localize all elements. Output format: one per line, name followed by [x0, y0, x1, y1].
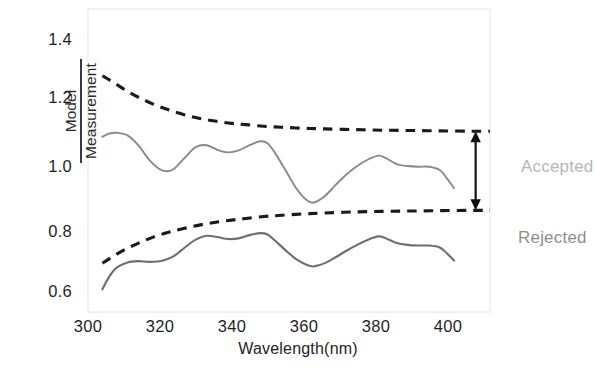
x-tick-label-400: 400 — [421, 317, 475, 336]
x-axis-label: Wavelength(nm) — [0, 340, 596, 358]
chart-figure: Model Measurement 1.4 1.2 1.0 0.8 0.6 30… — [0, 0, 596, 373]
series-accepted-ratio-curve — [102, 133, 454, 203]
series-rejected-ratio-curve — [102, 233, 454, 289]
x-tick-label-300: 300 — [61, 317, 115, 336]
series-lower-acceptance-limit — [102, 210, 490, 263]
x-tick-label-360: 360 — [277, 317, 331, 336]
x-tick-label-380: 380 — [349, 317, 403, 336]
accepted-label: Accepted — [521, 157, 593, 177]
x-tick-label-320: 320 — [133, 317, 187, 336]
y-tick-label-0-6: 0.6 — [24, 282, 72, 301]
y-tick-label-1-4: 1.4 — [24, 30, 72, 49]
series-upper-acceptance-limit — [102, 76, 490, 131]
y-tick-label-0-8: 0.8 — [24, 222, 72, 241]
y-tick-label-1-0: 1.0 — [24, 157, 72, 176]
y-tick-label-1-2: 1.2 — [24, 88, 72, 107]
y-axis-label-denominator: Measurement — [82, 59, 99, 163]
acceptance-band-arrow — [470, 131, 480, 210]
x-tick-label-340: 340 — [205, 317, 259, 336]
rejected-label: Rejected — [518, 228, 587, 248]
plot-frame — [88, 9, 490, 312]
